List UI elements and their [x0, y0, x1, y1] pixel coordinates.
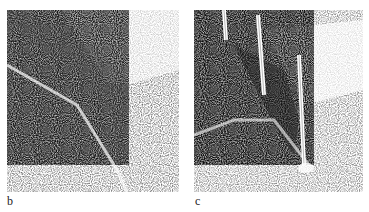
- panel-label-b: b: [7, 194, 13, 209]
- panel-c-illustration: [194, 10, 363, 192]
- groove-illustration: [7, 10, 179, 192]
- panel-label-c: c: [195, 194, 200, 209]
- panel-b-illustration: [7, 10, 179, 192]
- cut-with-pins-illustration: [194, 10, 363, 192]
